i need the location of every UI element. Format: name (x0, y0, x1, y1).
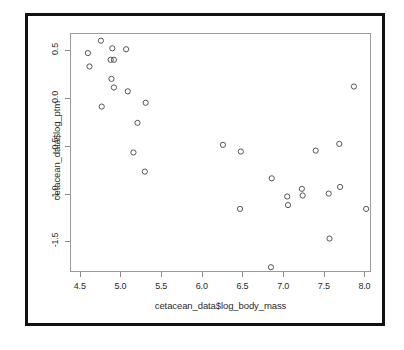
y-axis-tick-mark (65, 241, 70, 242)
x-axis-tick-label: 4.5 (65, 281, 95, 291)
y-axis-tick-mark (65, 194, 70, 195)
y-axis-label: cetacean_data$log_ptm (51, 51, 62, 251)
x-axis-tick-mark (120, 272, 121, 277)
x-axis-tick-mark (283, 272, 284, 277)
x-axis-tick-mark (161, 272, 162, 277)
x-axis-label: cetacean_data$log_body_mass (70, 300, 371, 311)
x-axis-tick-mark (80, 272, 81, 277)
x-axis-tick-label: 5.0 (105, 281, 135, 291)
y-axis-tick-mark (65, 50, 70, 51)
x-axis-tick-mark (324, 272, 325, 277)
plot-panel-box (70, 33, 371, 272)
figure-root: 4.55.05.56.06.57.07.58.00.50.0-0.5-1.0-1… (0, 0, 404, 350)
y-axis-tick-mark (65, 98, 70, 99)
x-axis-tick-mark (242, 272, 243, 277)
y-axis-tick-mark (65, 146, 70, 147)
x-axis-tick-label: 7.5 (309, 281, 339, 291)
x-axis-tick-mark (364, 272, 365, 277)
x-axis-tick-label: 6.5 (227, 281, 257, 291)
x-axis-tick-label: 6.0 (187, 281, 217, 291)
x-axis-tick-label: 8.0 (349, 281, 379, 291)
x-axis-tick-label: 7.0 (268, 281, 298, 291)
x-axis-tick-mark (202, 272, 203, 277)
x-axis-tick-label: 5.5 (146, 281, 176, 291)
